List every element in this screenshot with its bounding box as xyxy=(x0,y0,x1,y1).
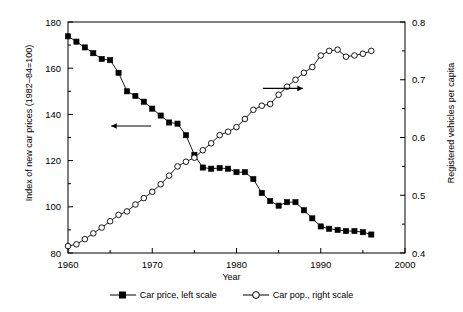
y-tick-left-label: 140 xyxy=(45,109,61,120)
x-tick-label: 2000 xyxy=(394,259,415,270)
data-point-marker xyxy=(74,242,80,248)
y-tick-right-label: 0.8 xyxy=(412,17,425,28)
data-point-marker xyxy=(352,53,358,59)
y-axis-left-title: Index of new car prices (1982–84=100) xyxy=(24,8,34,238)
data-point-marker xyxy=(192,155,198,161)
chart-figure: 19601970198019902000801001201401601800.4… xyxy=(0,0,463,312)
chart-legend: Car price, left scale Car pop., right sc… xyxy=(0,290,463,300)
x-tick-label: 1960 xyxy=(57,259,78,270)
data-point-marker xyxy=(124,89,129,94)
data-point-marker xyxy=(301,208,306,213)
data-point-marker xyxy=(318,53,324,59)
legend-item-car-price: Car price, left scale xyxy=(110,290,217,300)
y-tick-right-label: 0.6 xyxy=(412,132,425,143)
y-tick-right-label: 0.5 xyxy=(412,190,425,201)
legend-key-open-circle xyxy=(243,290,269,300)
data-point-marker xyxy=(209,166,214,171)
data-point-marker xyxy=(175,164,181,170)
data-point-marker xyxy=(158,181,164,187)
data-point-marker xyxy=(175,121,180,126)
data-point-marker xyxy=(133,93,138,98)
legend-label-car-price: Car price, left scale xyxy=(140,290,217,300)
data-point-marker xyxy=(116,212,122,218)
data-point-marker xyxy=(200,147,206,153)
data-point-marker xyxy=(141,195,147,201)
data-point-marker xyxy=(318,224,323,229)
data-point-marker xyxy=(74,39,79,44)
data-point-marker xyxy=(65,243,71,249)
data-point-marker xyxy=(352,228,357,233)
data-point-marker xyxy=(259,103,265,109)
data-point-marker xyxy=(284,200,289,205)
y-tick-left-label: 100 xyxy=(45,201,61,212)
series-line-1 xyxy=(68,50,371,246)
data-point-marker xyxy=(107,218,113,224)
y-tick-right-label: 0.7 xyxy=(412,74,425,85)
data-point-marker xyxy=(217,132,223,138)
x-tick-label: 1970 xyxy=(142,259,163,270)
data-point-marker xyxy=(301,70,307,76)
data-point-marker xyxy=(183,159,189,165)
data-point-marker xyxy=(90,231,96,237)
data-point-marker xyxy=(217,165,222,170)
data-point-marker xyxy=(225,129,231,135)
data-point-marker xyxy=(208,140,214,146)
data-point-marker xyxy=(91,51,96,56)
data-point-marker xyxy=(360,51,366,57)
annotation-arrow-head xyxy=(297,86,303,92)
x-axis-title: Year xyxy=(0,272,463,282)
data-point-marker xyxy=(293,200,298,205)
data-point-marker xyxy=(234,170,239,175)
data-point-marker xyxy=(150,106,155,111)
data-point-marker xyxy=(335,47,341,53)
y-axis-right-title: Registered vehicles per capita xyxy=(446,8,456,238)
data-point-marker xyxy=(360,230,365,235)
data-point-marker xyxy=(369,48,375,54)
data-point-marker xyxy=(82,236,88,242)
data-point-marker xyxy=(99,225,105,231)
x-tick-label: 1980 xyxy=(226,259,247,270)
annotation-arrow-head xyxy=(111,123,117,129)
data-point-marker xyxy=(141,99,146,104)
data-point-marker xyxy=(276,92,282,98)
data-point-marker xyxy=(276,203,281,208)
data-point-marker xyxy=(251,176,256,181)
chart-plot-area: 19601970198019902000801001201401601800.4… xyxy=(0,0,463,312)
data-point-marker xyxy=(166,173,172,179)
data-point-marker xyxy=(116,70,121,75)
data-point-marker xyxy=(242,170,247,175)
data-point-marker xyxy=(82,45,87,50)
data-point-marker xyxy=(259,190,264,195)
data-point-marker xyxy=(242,116,248,122)
data-point-marker xyxy=(326,48,332,54)
data-point-marker xyxy=(293,77,299,83)
data-point-marker xyxy=(124,209,130,215)
data-point-marker xyxy=(343,228,348,233)
data-point-marker xyxy=(167,120,172,125)
y-tick-left-label: 80 xyxy=(50,248,61,259)
data-point-marker xyxy=(149,189,155,195)
data-point-marker xyxy=(234,124,240,130)
data-point-marker xyxy=(251,107,257,113)
y-tick-left-label: 120 xyxy=(45,155,61,166)
y-tick-left-label: 160 xyxy=(45,63,61,74)
x-tick-label: 1990 xyxy=(310,259,331,270)
data-point-marker xyxy=(310,216,315,221)
data-point-marker xyxy=(99,56,104,61)
data-point-marker xyxy=(108,58,113,63)
data-point-marker xyxy=(133,202,139,208)
data-point-marker xyxy=(183,133,188,138)
legend-label-car-pop: Car pop., right scale xyxy=(273,290,354,300)
data-point-marker xyxy=(158,113,163,118)
data-point-marker xyxy=(327,226,332,231)
legend-key-filled-square xyxy=(110,290,136,300)
data-point-marker xyxy=(268,198,273,203)
data-point-marker xyxy=(335,227,340,232)
data-point-marker xyxy=(200,165,205,170)
data-point-marker xyxy=(343,54,349,60)
data-point-marker xyxy=(65,34,70,39)
data-point-marker xyxy=(310,64,316,70)
legend-item-car-pop: Car pop., right scale xyxy=(243,290,354,300)
data-point-marker xyxy=(225,166,230,171)
data-point-marker xyxy=(369,232,374,237)
